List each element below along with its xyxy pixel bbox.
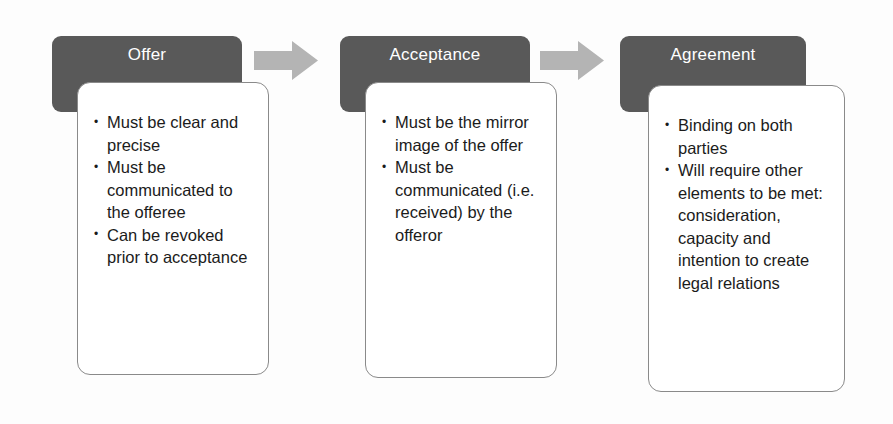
stage-header-label-acceptance: Acceptance	[340, 45, 530, 65]
stage-bullet-list-acceptance: Must be the mirror image of the offer Mu…	[382, 111, 546, 246]
list-item: Must be communicated (i.e. received) by …	[382, 156, 546, 246]
stage-card-agreement: Binding on both parties Will require oth…	[648, 85, 845, 392]
right-arrow-icon	[254, 41, 318, 80]
list-item: Will require other elements to be met: c…	[665, 159, 834, 294]
stage-card-offer: Must be clear and precise Must be commun…	[77, 82, 269, 375]
stage-bullet-list-offer: Must be clear and precise Must be commun…	[94, 111, 258, 269]
stage-bullet-list-agreement: Binding on both parties Will require oth…	[665, 114, 834, 294]
list-item: Must be communicated to the offeree	[94, 156, 258, 224]
list-item: Must be the mirror image of the offer	[382, 111, 546, 156]
list-item: Can be revoked prior to acceptance	[94, 224, 258, 269]
stage-header-label-agreement: Agreement	[620, 45, 806, 65]
right-arrow-icon	[540, 41, 604, 80]
list-item: Must be clear and precise	[94, 111, 258, 156]
stage-card-acceptance: Must be the mirror image of the offer Mu…	[365, 82, 557, 378]
contract-formation-diagram: Offer Must be clear and precise Must be …	[0, 0, 893, 424]
list-item: Binding on both parties	[665, 114, 834, 159]
stage-header-label-offer: Offer	[52, 45, 242, 65]
